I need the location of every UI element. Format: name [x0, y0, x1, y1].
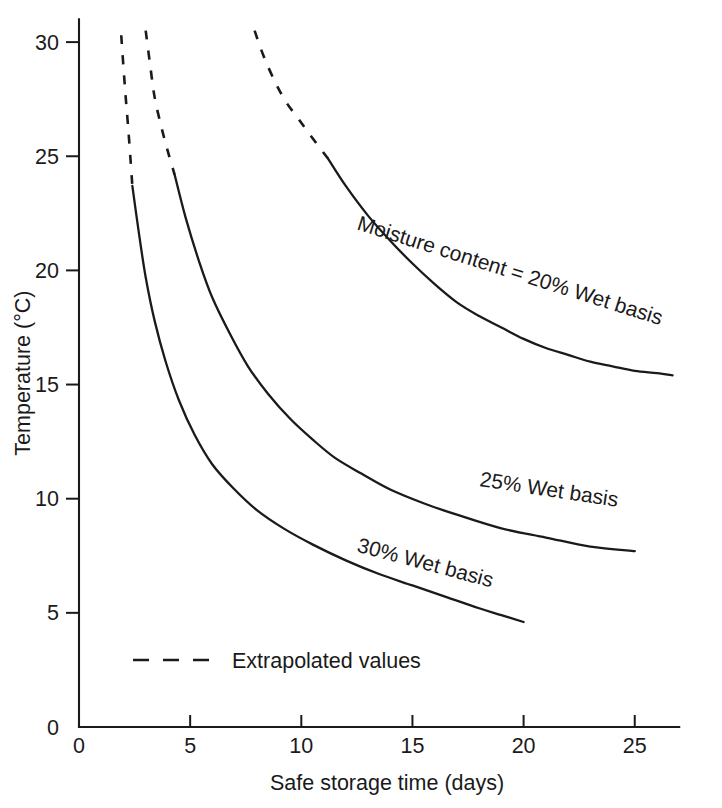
chart-figure: 0510152025300510152025 Moisture content … [0, 0, 722, 808]
safe-storage-time-chart: 0510152025300510152025 Moisture content … [0, 0, 722, 808]
x-axis-tick-label: 0 [73, 734, 85, 758]
curve-extrapolated-2 [121, 35, 132, 186]
series-label-0: Moisture content = 20% Wet basis [355, 211, 666, 329]
y-axis-tick-label: 20 [35, 259, 59, 283]
curve-extrapolated-1 [146, 31, 175, 175]
y-axis-tick-label: 30 [35, 31, 59, 55]
y-axis-tick-label: 10 [35, 487, 59, 511]
y-axis-tick-label: 5 [47, 601, 59, 625]
axis-ticks [66, 42, 635, 727]
x-axis-tick-label: 15 [400, 734, 424, 758]
x-axis-tick-label: 10 [289, 734, 313, 758]
y-axis-tick-label: 25 [35, 145, 59, 169]
x-axis-title: Safe storage time (days) [270, 771, 504, 795]
data-curves [121, 31, 672, 622]
x-axis-tick-label: 5 [184, 734, 196, 758]
series-label-2: 30% Wet basis [355, 533, 496, 591]
axis-titles: Safe storage time (days)Temperature (°C) [11, 291, 504, 795]
series-label-1: 25% Wet basis [478, 467, 620, 510]
y-axis-title: Temperature (°C) [11, 291, 35, 456]
y-axis-tick-label: 0 [47, 716, 59, 740]
chart-legend: Extrapolated values [133, 649, 421, 673]
series-annotations: Moisture content = 20% Wet basis25% Wet … [355, 211, 666, 591]
legend-label-extrapolated-values: Extrapolated values [232, 649, 421, 673]
x-axis-tick-label: 25 [623, 734, 647, 758]
y-axis-tick-label: 15 [35, 373, 59, 397]
curve-extrapolated-0 [255, 31, 328, 159]
x-axis-tick-label: 20 [512, 734, 536, 758]
